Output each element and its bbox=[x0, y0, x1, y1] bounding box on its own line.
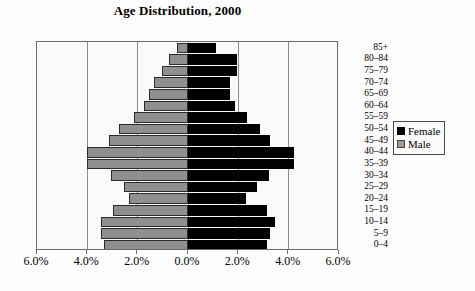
bar-female[interactable] bbox=[188, 147, 294, 158]
age-group-label: 70–74 bbox=[340, 77, 388, 87]
bar-row bbox=[37, 100, 337, 112]
population-pyramid-chart: Age Distribution, 2000 6.0%4.0%2.0%0.0%2… bbox=[0, 0, 475, 291]
age-group-label: 0–4 bbox=[340, 239, 388, 249]
age-group-label: 65–69 bbox=[340, 88, 388, 98]
bar-female[interactable] bbox=[188, 66, 237, 77]
age-group-label: 85+ bbox=[340, 42, 388, 52]
x-tick-mark bbox=[338, 250, 339, 254]
age-group-label: 60–64 bbox=[340, 100, 388, 110]
bar-female[interactable] bbox=[188, 205, 267, 216]
age-group-label: 75–79 bbox=[340, 65, 388, 75]
bar-female[interactable] bbox=[188, 124, 260, 135]
bar-male[interactable] bbox=[144, 101, 188, 112]
age-group-label: 45–49 bbox=[340, 135, 388, 145]
age-group-label: 15–19 bbox=[340, 204, 388, 214]
legend-swatch-male-icon bbox=[397, 140, 405, 148]
bar-row bbox=[37, 88, 337, 100]
bar-row bbox=[37, 65, 337, 77]
bar-male[interactable] bbox=[162, 66, 188, 77]
bar-male[interactable] bbox=[87, 147, 188, 158]
plot-inner bbox=[37, 42, 337, 249]
age-group-label: 30–34 bbox=[340, 170, 388, 180]
x-tick-mark bbox=[86, 250, 87, 254]
x-tick-mark bbox=[36, 250, 37, 254]
age-group-label: 10–14 bbox=[340, 216, 388, 226]
age-group-label: 5–9 bbox=[340, 228, 388, 238]
age-group-label: 40–44 bbox=[340, 146, 388, 156]
bar-male[interactable] bbox=[109, 135, 188, 146]
bar-male[interactable] bbox=[149, 89, 188, 100]
bar-row bbox=[37, 239, 337, 249]
bar-male[interactable] bbox=[169, 54, 188, 65]
chart-title: Age Distribution, 2000 bbox=[0, 3, 355, 19]
bar-row bbox=[37, 193, 337, 205]
bar-male[interactable] bbox=[154, 77, 188, 88]
age-group-label: 80–84 bbox=[340, 53, 388, 63]
bar-male[interactable] bbox=[104, 240, 188, 249]
x-tick-label: 6.0% bbox=[308, 254, 368, 269]
y-axis-age-labels: 85+80–8475–7970–7465–6960–6455–5950–5445… bbox=[340, 36, 388, 254]
bar-male[interactable] bbox=[177, 43, 188, 54]
age-group-label: 20–24 bbox=[340, 193, 388, 203]
bar-row bbox=[37, 147, 337, 159]
bar-row bbox=[37, 216, 337, 228]
bar-row bbox=[37, 135, 337, 147]
bar-row bbox=[37, 42, 337, 54]
plot-area bbox=[36, 41, 338, 250]
x-tick-mark bbox=[287, 250, 288, 254]
bar-female[interactable] bbox=[188, 54, 237, 65]
legend-swatch-female-icon bbox=[397, 127, 405, 135]
legend-label-female: Female bbox=[408, 125, 440, 137]
bar-female[interactable] bbox=[188, 240, 267, 249]
age-group-label: 25–29 bbox=[340, 181, 388, 191]
x-tick-mark bbox=[237, 250, 238, 254]
bar-row bbox=[37, 228, 337, 240]
bar-female[interactable] bbox=[188, 89, 230, 100]
age-group-label: 50–54 bbox=[340, 123, 388, 133]
chart-legend: Female Male bbox=[393, 121, 445, 155]
legend-item-female[interactable]: Female bbox=[397, 125, 440, 137]
bar-female[interactable] bbox=[188, 170, 269, 181]
bar-row bbox=[37, 54, 337, 66]
bar-male[interactable] bbox=[119, 124, 188, 135]
bar-male[interactable] bbox=[101, 217, 188, 228]
legend-label-male: Male bbox=[408, 138, 431, 150]
age-group-label: 35–39 bbox=[340, 158, 388, 168]
bar-male[interactable] bbox=[101, 228, 188, 239]
age-group-label: 55–59 bbox=[340, 111, 388, 121]
bar-row bbox=[37, 123, 337, 135]
bar-female[interactable] bbox=[188, 112, 247, 123]
bar-female[interactable] bbox=[188, 193, 246, 204]
bar-row bbox=[37, 205, 337, 217]
bar-female[interactable] bbox=[188, 43, 216, 54]
bar-female[interactable] bbox=[188, 217, 275, 228]
bar-female[interactable] bbox=[188, 182, 257, 193]
bar-female[interactable] bbox=[188, 135, 270, 146]
x-tick-mark bbox=[136, 250, 137, 254]
bar-row bbox=[37, 77, 337, 89]
bar-female[interactable] bbox=[188, 159, 294, 170]
bar-female[interactable] bbox=[188, 77, 230, 88]
bar-female[interactable] bbox=[188, 101, 235, 112]
bar-female[interactable] bbox=[188, 228, 270, 239]
bar-male[interactable] bbox=[113, 205, 189, 216]
bar-male[interactable] bbox=[129, 193, 188, 204]
bar-row bbox=[37, 181, 337, 193]
bar-male[interactable] bbox=[124, 182, 188, 193]
bar-row bbox=[37, 112, 337, 124]
legend-item-male[interactable]: Male bbox=[397, 138, 440, 150]
x-tick-mark bbox=[187, 250, 188, 254]
bar-male[interactable] bbox=[87, 159, 188, 170]
bar-row bbox=[37, 158, 337, 170]
bar-row bbox=[37, 170, 337, 182]
bar-male[interactable] bbox=[111, 170, 188, 181]
bar-male[interactable] bbox=[134, 112, 188, 123]
